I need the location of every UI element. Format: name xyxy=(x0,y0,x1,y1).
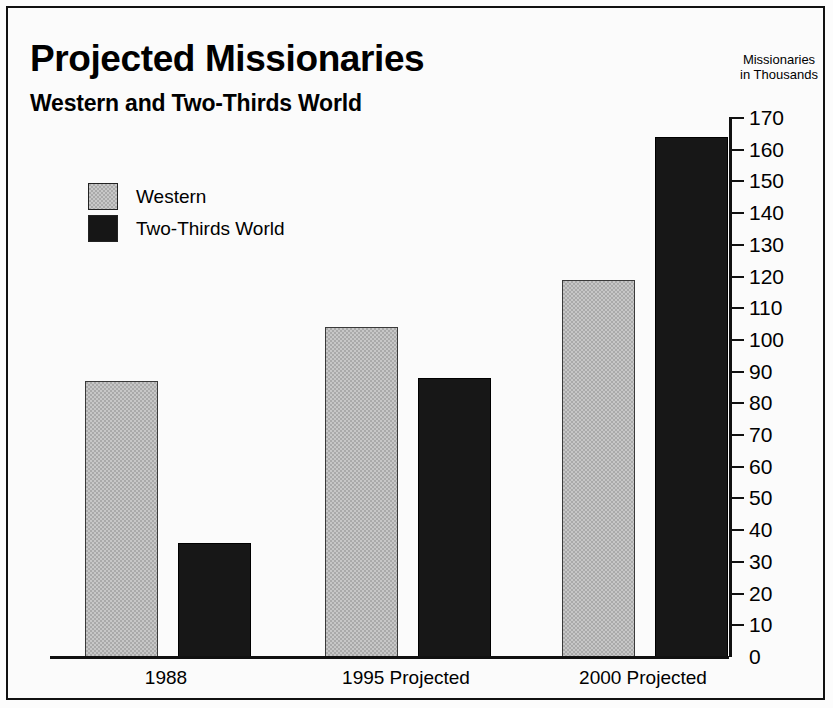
y-tick-label-0: 0 xyxy=(749,646,761,667)
y-tick-10 xyxy=(729,624,744,626)
y-tick-label-50: 50 xyxy=(749,487,772,508)
y-axis-caption-line1: Missionaries xyxy=(729,52,829,67)
x-axis-line xyxy=(50,656,729,659)
chart-page: Projected Missionaries Western and Two-T… xyxy=(0,0,833,708)
bar-western-1995-projected xyxy=(325,327,398,657)
x-axis-label-2000-projected: 2000 Projected xyxy=(543,668,743,687)
y-tick-label-10: 10 xyxy=(749,614,772,635)
bar-two-thirds-world-1995-projected xyxy=(418,378,491,657)
y-tick-label-170: 170 xyxy=(749,107,784,128)
y-tick-label-150: 150 xyxy=(749,170,784,191)
y-tick-label-120: 120 xyxy=(749,266,784,287)
y-tick-20 xyxy=(729,593,744,595)
y-tick-110 xyxy=(729,307,744,309)
y-tick-140 xyxy=(729,212,744,214)
plot-area xyxy=(50,118,729,657)
y-tick-label-30: 30 xyxy=(749,551,772,572)
y-tick-120 xyxy=(729,276,744,278)
y-tick-label-140: 140 xyxy=(749,202,784,223)
chart-title: Projected Missionaries xyxy=(30,40,424,77)
y-tick-150 xyxy=(729,180,744,182)
y-tick-40 xyxy=(729,529,744,531)
y-tick-170 xyxy=(729,117,744,119)
y-tick-100 xyxy=(729,339,744,341)
y-axis-line xyxy=(729,118,732,657)
y-tick-label-130: 130 xyxy=(749,234,784,255)
bar-western-1988 xyxy=(85,381,158,657)
y-tick-70 xyxy=(729,434,744,436)
y-axis-caption: Missionaries in Thousands xyxy=(729,52,829,82)
bar-western-2000-projected xyxy=(562,280,635,657)
y-tick-60 xyxy=(729,466,744,468)
y-tick-label-40: 40 xyxy=(749,519,772,540)
bar-two-thirds-world-1988 xyxy=(178,543,251,657)
y-tick-label-20: 20 xyxy=(749,583,772,604)
chart-subtitle: Western and Two-Thirds World xyxy=(30,92,362,115)
y-tick-90 xyxy=(729,371,744,373)
bar-two-thirds-world-2000-projected xyxy=(655,137,728,657)
y-tick-label-80: 80 xyxy=(749,392,772,413)
y-tick-160 xyxy=(729,149,744,151)
y-tick-label-100: 100 xyxy=(749,329,784,350)
y-tick-label-60: 60 xyxy=(749,456,772,477)
y-tick-130 xyxy=(729,244,744,246)
y-tick-label-70: 70 xyxy=(749,424,772,445)
x-axis-label-1988: 1988 xyxy=(66,668,266,687)
y-tick-30 xyxy=(729,561,744,563)
y-tick-label-90: 90 xyxy=(749,361,772,382)
y-axis-caption-line2: in Thousands xyxy=(729,67,829,82)
y-tick-80 xyxy=(729,402,744,404)
y-tick-label-160: 160 xyxy=(749,139,784,160)
y-tick-50 xyxy=(729,497,744,499)
y-tick-label-110: 110 xyxy=(749,297,782,318)
x-axis-label-1995-projected: 1995 Projected xyxy=(306,668,506,687)
